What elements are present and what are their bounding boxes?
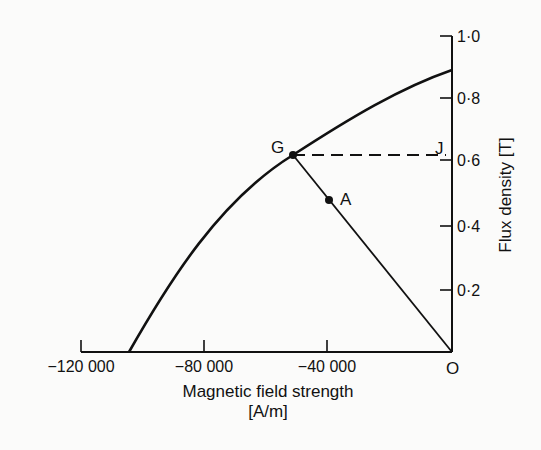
label-origin: O — [446, 359, 459, 378]
y-tick-label: 0·2 — [457, 282, 480, 299]
y-tick-label: 0·6 — [457, 152, 480, 169]
x-axis-unit: [A/m] — [248, 402, 288, 421]
label-g: G — [271, 138, 284, 157]
x-axis-title: Magnetic field strength — [182, 382, 353, 401]
point-a — [325, 196, 333, 204]
label-j: J — [435, 139, 444, 158]
y-tick-label: 1·0 — [457, 28, 480, 45]
y-axis-title: Flux density [T] — [496, 137, 515, 252]
x-tick-label: −120 000 — [47, 358, 114, 375]
y-tick-label: 0·4 — [457, 218, 480, 235]
x-tick-label: −80 000 — [175, 358, 233, 375]
y-tick-label: 0·8 — [457, 90, 480, 107]
label-a: A — [340, 190, 352, 209]
x-tick-label: −40 000 — [298, 358, 356, 375]
demagnetisation-curve — [129, 70, 452, 352]
load-line — [293, 155, 452, 352]
bh-diagram: G A J O −120 000 −80 000 −40 000 0·2 0·4… — [0, 0, 541, 450]
point-g — [289, 151, 297, 159]
